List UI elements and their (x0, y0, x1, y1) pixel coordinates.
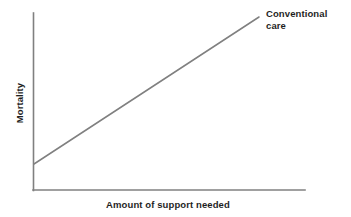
series-annotation-conventional-care: Conventional care (266, 8, 346, 32)
series-annotation-line-1: Conventional (266, 8, 346, 20)
series-annotation-line-2: care (266, 20, 346, 32)
y-axis-label: Mortality (14, 83, 26, 124)
conventional-care-trend-line (34, 17, 259, 164)
plot-area (0, 0, 351, 217)
figure-container: Mortality Amount of support needed Conve… (0, 0, 351, 217)
x-axis-label: Amount of support needed (100, 199, 236, 211)
